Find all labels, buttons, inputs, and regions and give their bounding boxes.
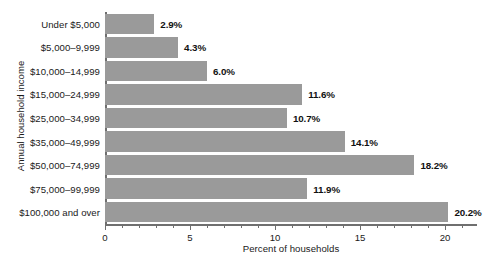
bar-value-label: 20.2% — [454, 207, 481, 218]
x-tick-minor — [377, 224, 378, 228]
bar-value-label: 6.0% — [213, 65, 235, 76]
x-tick-minor — [241, 224, 242, 228]
x-tick-major — [360, 224, 361, 230]
x-tick-minor — [411, 224, 412, 228]
x-tick-label: 15 — [355, 232, 366, 243]
category-label: $10,000–14,999 — [30, 65, 100, 76]
x-axis-line — [105, 224, 477, 226]
x-tick-label: 5 — [187, 232, 192, 243]
bar — [105, 108, 287, 129]
bar — [105, 155, 414, 176]
x-tick-minor — [309, 224, 310, 228]
x-tick-minor — [173, 224, 174, 228]
bar-value-label: 18.2% — [420, 160, 447, 171]
x-tick-minor — [326, 224, 327, 228]
category-label: $35,000–49,999 — [30, 136, 100, 147]
bar-value-label: 4.3% — [184, 42, 206, 53]
bar-chart: Annual household income Under $5,000 2.9… — [0, 0, 496, 264]
x-tick-label: 10 — [270, 232, 281, 243]
x-tick-minor — [394, 224, 395, 228]
bar — [105, 202, 448, 223]
bar — [105, 84, 302, 105]
x-tick-major — [105, 224, 106, 230]
x-tick-major — [190, 224, 191, 230]
bar-value-label: 11.6% — [308, 89, 335, 100]
x-tick-minor — [462, 224, 463, 228]
bar — [105, 131, 345, 152]
category-label: $5,000–9,999 — [41, 42, 100, 53]
category-label: Under $5,000 — [41, 18, 100, 29]
category-label: $15,000–24,999 — [30, 89, 100, 100]
x-tick-minor — [139, 224, 140, 228]
x-tick-major — [445, 224, 446, 230]
x-tick-minor — [122, 224, 123, 228]
bar — [105, 37, 178, 58]
x-tick-minor — [343, 224, 344, 228]
category-label: $75,000–99,999 — [30, 183, 100, 194]
bar-value-label: 10.7% — [293, 112, 320, 123]
y-axis-title: Annual household income — [14, 4, 28, 228]
bar-value-label: 2.9% — [160, 18, 182, 29]
x-tick-major — [275, 224, 276, 230]
x-tick-minor — [224, 224, 225, 228]
x-axis-title: Percent of households — [105, 243, 477, 254]
x-tick-minor — [156, 224, 157, 228]
x-tick-label: 20 — [440, 232, 451, 243]
bar — [105, 61, 207, 82]
bar-value-label: 14.1% — [351, 136, 378, 147]
category-label: $25,000–34,999 — [30, 112, 100, 123]
x-tick-minor — [428, 224, 429, 228]
x-tick-minor — [258, 224, 259, 228]
plot-area: Under $5,000 2.9% $5,000–9,999 4.3% $10,… — [105, 12, 477, 224]
bar-value-label: 11.9% — [313, 183, 340, 194]
bar — [105, 178, 307, 199]
x-tick-minor — [292, 224, 293, 228]
category-label: $50,000–74,999 — [30, 160, 100, 171]
x-tick-label: 0 — [102, 232, 107, 243]
category-label: $100,000 and over — [19, 207, 100, 218]
bar — [105, 14, 154, 35]
x-tick-minor — [207, 224, 208, 228]
